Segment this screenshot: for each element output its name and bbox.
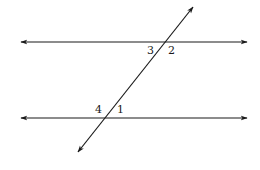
diagram-canvas: 3 2 4 1 <box>0 0 260 170</box>
angle-label-2: 2 <box>168 44 175 57</box>
angle-label-3: 3 <box>147 44 154 57</box>
angle-label-1: 1 <box>117 103 124 116</box>
transversal-line <box>78 7 193 152</box>
parallel-lines-transversal-diagram: 3 2 4 1 <box>0 0 260 170</box>
angle-label-4: 4 <box>95 103 102 116</box>
